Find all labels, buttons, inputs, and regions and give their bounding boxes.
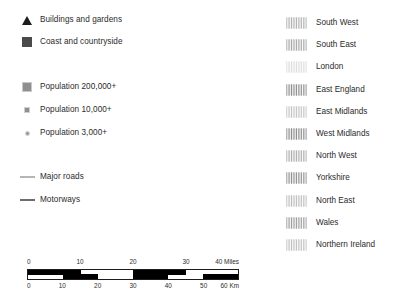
legend-item-label: Motorways — [40, 195, 80, 205]
region-swatch — [286, 84, 307, 96]
region-swatch — [286, 106, 307, 118]
region-swatch — [286, 61, 307, 73]
region-label: North West — [316, 151, 357, 161]
legend-item-label: Population 10,000+ — [40, 105, 112, 115]
region-label: London — [316, 62, 343, 72]
scale-block — [63, 274, 98, 279]
map-legend-left: Buildings and gardens Coast and countrys… — [0, 0, 265, 302]
region-label: West Midlands — [316, 129, 370, 139]
region-item-wales[interactable]: Wales — [286, 212, 409, 234]
region-label: South East — [316, 40, 356, 50]
legend-item-population-200000[interactable]: Population 200,000+ — [14, 82, 116, 92]
region-swatch — [286, 39, 307, 51]
legend-item-label: Buildings and gardens — [40, 15, 122, 25]
scale-tick-km: 30 — [129, 282, 136, 289]
region-swatch — [286, 239, 307, 251]
region-swatch — [286, 17, 307, 29]
legend-item-coast-and-countryside[interactable]: Coast and countryside — [14, 37, 123, 47]
large-square-icon — [14, 82, 40, 92]
region-swatch — [286, 217, 307, 229]
region-item-south-west[interactable]: South West — [286, 12, 409, 34]
region-item-north-west[interactable]: North West — [286, 145, 409, 167]
scale-tick-km: 0 — [27, 282, 31, 289]
scale-tick-km: 10 — [59, 282, 66, 289]
scale-tick-miles: 10 — [76, 258, 83, 265]
legend-item-population-10000[interactable]: Population 10,000+ — [14, 105, 112, 115]
region-label: East Midlands — [316, 107, 367, 117]
scale-bar-graphic — [27, 269, 239, 280]
scale-tick-km: 20 — [94, 282, 101, 289]
scale-block — [203, 274, 238, 279]
region-label: East England — [316, 85, 365, 95]
legend-item-population-3000[interactable]: Population 3,000+ — [14, 128, 107, 138]
legend-item-major-roads[interactable]: Major roads — [14, 172, 84, 182]
map-scale-bar: 0 10 20 30 40 Miles 0 10 20 30 40 — [27, 258, 239, 293]
scale-bar-km-row — [28, 274, 238, 279]
scale-unit-label-km: 60 Km — [221, 282, 239, 289]
thin-line-icon — [14, 176, 40, 178]
region-item-west-midlands[interactable]: West Midlands — [286, 123, 409, 145]
legend-item-label: Major roads — [40, 172, 84, 182]
scale-block — [133, 274, 168, 279]
scale-tick-km: 40 — [165, 282, 172, 289]
legend-item-label: Coast and countryside — [40, 37, 123, 47]
region-item-east-midlands[interactable]: East Midlands — [286, 101, 409, 123]
region-item-northern-ireland[interactable]: Northern Ireland — [286, 234, 409, 256]
map-legend-regions: South West South East London East Englan… — [286, 0, 409, 302]
region-label: North East — [316, 196, 355, 206]
legend-item-label: Population 3,000+ — [40, 128, 107, 138]
small-dot-icon — [14, 131, 40, 136]
region-label: South West — [316, 18, 358, 28]
scale-ticks-miles: 0 10 20 30 40 Miles — [27, 258, 239, 269]
region-item-south-east[interactable]: South East — [286, 34, 409, 56]
region-label: Yorkshire — [316, 173, 350, 183]
filled-square-icon — [14, 37, 40, 47]
legend-item-label: Population 200,000+ — [40, 82, 116, 92]
region-swatch — [286, 195, 307, 207]
region-swatch — [286, 172, 307, 184]
region-swatch — [286, 150, 307, 162]
region-swatch — [286, 128, 307, 140]
region-label: Northern Ireland — [316, 240, 375, 250]
scale-tick-km: 50 — [200, 282, 207, 289]
thick-line-icon — [14, 199, 40, 201]
scale-unit-label-miles: 40 Miles — [215, 258, 239, 265]
legend-item-motorways[interactable]: Motorways — [14, 195, 80, 205]
small-square-icon — [14, 107, 40, 113]
scale-tick-miles: 20 — [129, 258, 136, 265]
scale-tick-miles: 30 — [182, 258, 189, 265]
scale-tick-miles: 0 — [27, 258, 31, 265]
region-item-yorkshire[interactable]: Yorkshire — [286, 167, 409, 189]
scale-ticks-kilometres: 0 10 20 30 40 50 60 Km — [27, 282, 239, 293]
region-item-north-east[interactable]: North East — [286, 190, 409, 212]
filled-triangle-icon — [14, 16, 40, 25]
legend-item-buildings-and-gardens[interactable]: Buildings and gardens — [14, 15, 122, 25]
region-item-london[interactable]: London — [286, 56, 409, 78]
region-item-east-england[interactable]: East England — [286, 79, 409, 101]
region-label: Wales — [316, 218, 338, 228]
